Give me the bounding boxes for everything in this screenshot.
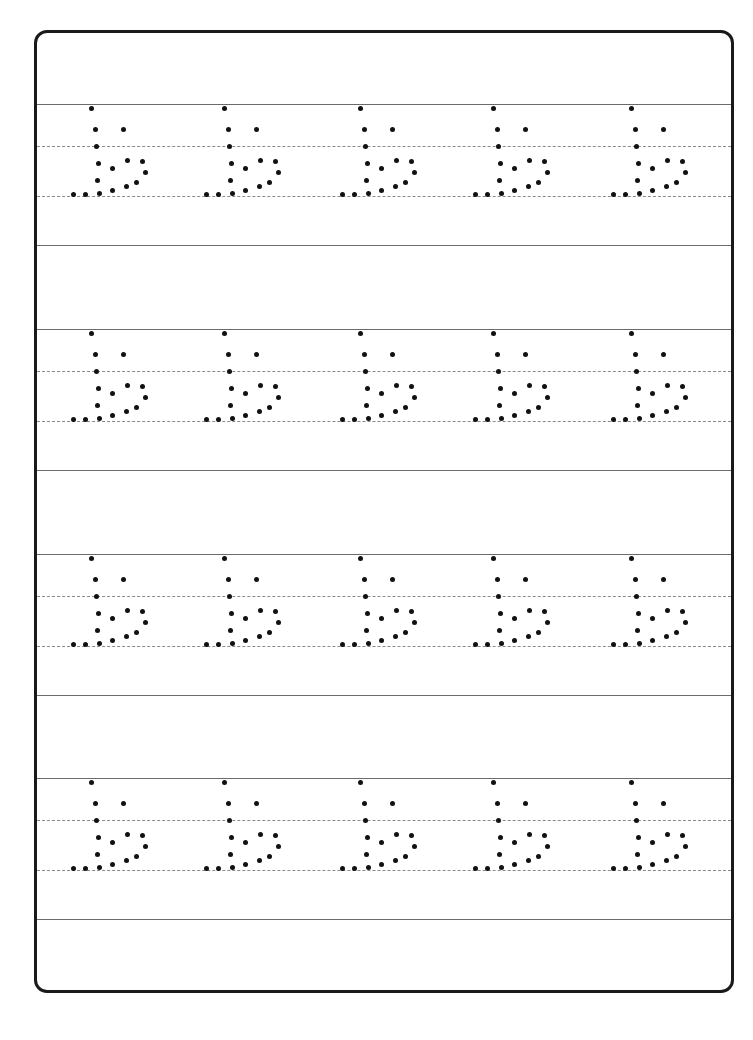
trace-dot [230, 416, 235, 421]
trace-dot [499, 641, 504, 646]
trace-dot [665, 158, 670, 163]
trace-dot [498, 161, 503, 166]
trace-dot [258, 608, 263, 613]
trace-dot [403, 630, 408, 635]
trace-dot [204, 866, 209, 871]
trace-dot [227, 144, 232, 149]
mid-dashed-line [37, 371, 731, 372]
trace-dot [409, 609, 414, 614]
trace-dot [94, 369, 99, 374]
bottom-solid-line [37, 245, 731, 246]
trace-dot [650, 840, 655, 845]
dotted-letter-glyph [631, 554, 632, 555]
trace-dot [526, 634, 531, 639]
trace-dot [650, 862, 655, 867]
trace-dot [276, 170, 281, 175]
trace-dot [499, 191, 504, 196]
trace-dot [683, 395, 688, 400]
trace-dot [498, 611, 503, 616]
trace-dot [358, 106, 363, 111]
trace-dot [258, 832, 263, 837]
dotted-letter-glyph [360, 329, 361, 330]
trace-dot [512, 188, 517, 193]
trace-dot [97, 865, 102, 870]
trace-dot [243, 413, 248, 418]
trace-dot [394, 383, 399, 388]
trace-dot [495, 577, 500, 582]
trace-dot [273, 833, 278, 838]
trace-dot [542, 833, 547, 838]
trace-dot [379, 391, 384, 396]
trace-dot [228, 628, 233, 633]
dotted-letter-glyph [631, 778, 632, 779]
trace-dot [680, 609, 685, 614]
trace-dot [497, 178, 502, 183]
trace-dot [226, 352, 231, 357]
worksheet-frame: Letter tracing worksheet [34, 30, 734, 993]
trace-dot [495, 801, 500, 806]
trace-dot [497, 852, 502, 857]
trace-dot [412, 170, 417, 175]
trace-dot [390, 352, 395, 357]
dotted-letter-glyph [91, 778, 92, 779]
trace-dot [536, 630, 541, 635]
trace-dot [125, 832, 130, 837]
trace-dot [143, 395, 148, 400]
trace-dot [623, 192, 628, 197]
trace-dot [536, 405, 541, 410]
trace-dot [393, 858, 398, 863]
trace-dot [352, 417, 357, 422]
trace-dot [611, 866, 616, 871]
trace-dot [93, 127, 98, 132]
trace-dot [664, 184, 669, 189]
trace-dot [110, 166, 115, 171]
trace-dot [243, 166, 248, 171]
trace-dot [216, 866, 221, 871]
trace-dot [661, 352, 666, 357]
trace-dot [243, 638, 248, 643]
trace-dot [674, 180, 679, 185]
trace-dot [358, 780, 363, 785]
trace-dot [134, 854, 139, 859]
trace-dot [97, 191, 102, 196]
top-solid-line [37, 554, 731, 555]
bottom-solid-line [37, 695, 731, 696]
mid-dashed-line [37, 820, 731, 821]
trace-dot [665, 608, 670, 613]
dotted-letter-glyph [91, 554, 92, 555]
trace-dot [512, 413, 517, 418]
top-solid-line [37, 104, 731, 105]
trace-dot [542, 159, 547, 164]
trace-dot [362, 577, 367, 582]
trace-dot [497, 628, 502, 633]
trace-dot [637, 416, 642, 421]
trace-dot [229, 386, 234, 391]
trace-dot [496, 369, 501, 374]
worksheet-title: Letter tracing worksheet [37, 33, 38, 34]
trace-dot [545, 620, 550, 625]
dotted-letter-glyph [360, 554, 361, 555]
dotted-letter-glyph [493, 554, 494, 555]
trace-dot [412, 395, 417, 400]
trace-dot [121, 352, 126, 357]
trace-dot [229, 161, 234, 166]
trace-dot [633, 577, 638, 582]
trace-dot [83, 192, 88, 197]
trace-dot [403, 180, 408, 185]
trace-dot [97, 641, 102, 646]
trace-dot [94, 144, 99, 149]
trace-dot [352, 642, 357, 647]
trace-dot [393, 634, 398, 639]
trace-dot [379, 862, 384, 867]
mid-dashed-line [37, 146, 731, 147]
trace-dot [71, 642, 76, 647]
trace-dot [636, 161, 641, 166]
trace-dot [365, 386, 370, 391]
trace-dot [650, 638, 655, 643]
trace-dot [545, 170, 550, 175]
trace-dot [512, 840, 517, 845]
trace-dot [71, 192, 76, 197]
trace-dot [143, 170, 148, 175]
trace-dot [89, 556, 94, 561]
trace-dot [226, 801, 231, 806]
